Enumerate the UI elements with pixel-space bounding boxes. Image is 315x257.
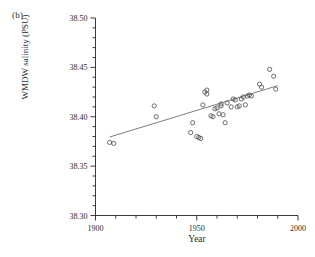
data-point	[154, 115, 158, 119]
regression-trendline	[110, 86, 278, 137]
figure-panel: (b) WMDW salinity (PSU) Year 38.3038.353…	[0, 0, 315, 257]
x-tick-label: 2000	[290, 224, 306, 233]
y-tick-label: 38.35	[70, 162, 88, 171]
data-point	[152, 104, 156, 108]
data-point	[221, 113, 225, 117]
data-point	[217, 112, 221, 116]
x-axis-ticks	[96, 216, 299, 221]
y-tick-label: 38.50	[70, 14, 88, 23]
data-point	[112, 141, 116, 145]
x-tick-label: 1950	[189, 224, 205, 233]
y-axis-ticks	[91, 18, 96, 216]
y-tick-label: 38.30	[70, 212, 88, 221]
data-point	[191, 121, 195, 125]
data-point	[229, 105, 233, 109]
data-point-markers	[108, 67, 278, 145]
x-axis-tick-labels: 190019502000	[88, 224, 307, 233]
data-point	[223, 121, 227, 125]
data-point	[257, 82, 261, 86]
data-point	[272, 74, 276, 78]
x-tick-label: 1900	[88, 224, 104, 233]
axis-lines	[95, 18, 298, 216]
data-point	[243, 103, 247, 107]
data-point	[189, 130, 193, 134]
data-point	[274, 87, 278, 91]
y-axis-tick-labels: 38.3038.3538.4038.4538.50	[70, 14, 88, 221]
data-point	[268, 67, 272, 71]
data-point	[201, 103, 205, 107]
data-point	[108, 140, 112, 144]
scatter-plot: 38.3038.3538.4038.4538.50 190019502000	[0, 0, 315, 257]
data-point	[259, 85, 263, 89]
y-tick-label: 38.45	[70, 63, 88, 72]
y-tick-label: 38.40	[70, 113, 88, 122]
